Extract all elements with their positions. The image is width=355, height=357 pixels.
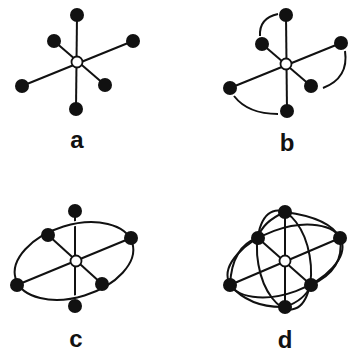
leaf-node: [223, 81, 237, 95]
arc-top-upperleft: [260, 14, 278, 36]
leaf-node: [279, 8, 293, 22]
leaf-node: [68, 204, 82, 218]
leaf-node: [280, 104, 294, 118]
hub-node: [281, 59, 292, 70]
panel-d-label: d: [265, 328, 305, 352]
panel-c-label: c: [56, 327, 96, 351]
leaf-node: [15, 79, 29, 93]
leaf-node: [255, 37, 269, 51]
panel-a-graph: [15, 8, 140, 116]
arc-lowerleft-bottom: [234, 96, 278, 114]
leaf-node: [70, 8, 84, 22]
leaf-node: [334, 36, 348, 50]
hub-node: [71, 256, 82, 267]
leaf-node: [47, 34, 61, 48]
leaf-node: [95, 277, 109, 291]
panel-c-graph: [5, 204, 143, 313]
leaf-node: [223, 278, 237, 292]
leaf-node: [126, 34, 140, 48]
panel-d-graph: [218, 205, 353, 314]
panel-b-graph: [223, 8, 348, 118]
leaf-node: [10, 278, 24, 292]
leaf-node: [304, 79, 318, 93]
panel-a-label: a: [57, 128, 97, 152]
panel-b-label: b: [267, 131, 307, 155]
leaf-node: [69, 102, 83, 116]
diagram-figure: [0, 0, 355, 357]
leaf-node: [41, 228, 55, 242]
leaf-node: [333, 231, 347, 245]
leaf-node: [304, 278, 318, 292]
leaf-node: [98, 78, 112, 92]
leaf-node: [278, 205, 292, 219]
hub-node: [280, 256, 291, 267]
leaf-node: [251, 231, 265, 245]
hub-node: [72, 57, 83, 68]
arc-upperright-lowerright: [323, 51, 346, 88]
leaf-node: [278, 300, 292, 314]
leaf-node: [124, 231, 138, 245]
leaf-node: [68, 299, 82, 313]
